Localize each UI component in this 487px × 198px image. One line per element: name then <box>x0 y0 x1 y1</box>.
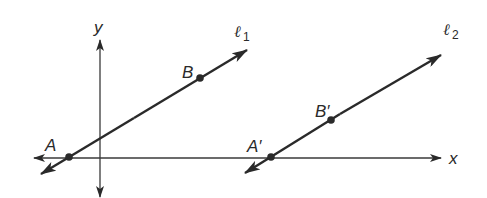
line-l2 <box>245 55 441 173</box>
label-l2: ℓ 2 <box>443 20 459 42</box>
label-l1: ℓ 1 <box>234 22 250 44</box>
label-b: B <box>182 63 193 82</box>
svg-text:ℓ: ℓ <box>234 22 241 41</box>
point-b <box>196 74 204 82</box>
label-a-prime: A′ <box>246 137 262 156</box>
label-a: A <box>44 136 56 155</box>
point-a-prime <box>267 153 275 161</box>
diagram-canvas: y x A B A′ B′ ℓ 1 ℓ 2 <box>0 0 487 198</box>
x-axis-label: x <box>448 149 458 168</box>
label-b-prime: B′ <box>315 102 330 121</box>
point-a <box>65 153 73 161</box>
svg-text:ℓ: ℓ <box>443 20 450 39</box>
svg-text:1: 1 <box>243 30 250 44</box>
y-axis-label: y <box>93 18 104 37</box>
svg-text:2: 2 <box>452 28 459 42</box>
